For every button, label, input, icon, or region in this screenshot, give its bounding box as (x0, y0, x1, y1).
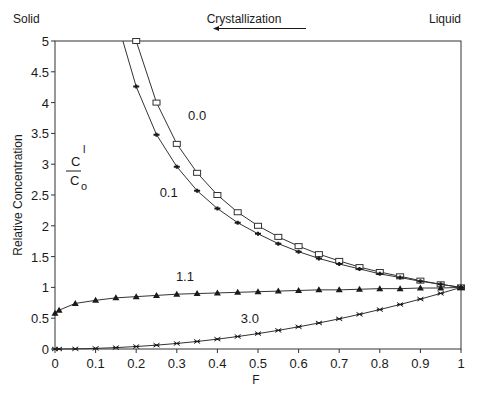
x-tick-label: 1 (457, 356, 464, 371)
series-label: 0.1 (160, 185, 178, 200)
y-axis-ticks: 00.511.522.533.544.55 (31, 34, 55, 357)
solid-label: Solid (13, 12, 40, 26)
y-tick-label: 1 (42, 280, 49, 295)
asterisk-marker-icon (133, 345, 139, 349)
square-marker-icon (234, 210, 241, 215)
star-marker-icon (174, 165, 180, 169)
x-tick-label: 0.9 (411, 356, 429, 371)
asterisk-marker-icon (214, 337, 220, 341)
y-tick-label: 0.5 (31, 311, 49, 326)
series-label: 0.0 (188, 108, 206, 123)
star-marker-icon (296, 250, 302, 254)
y-axis-label: Relative Concentration (11, 134, 25, 255)
x-tick-label: 0.2 (127, 356, 145, 371)
asterisk-marker-icon (438, 291, 444, 295)
x-tick-label: 0.6 (290, 356, 308, 371)
y-tick-label: 0 (42, 342, 49, 357)
asterisk-marker-icon (56, 347, 62, 351)
y-tick-label: 2 (42, 219, 49, 234)
asterisk-marker-icon (357, 312, 363, 316)
square-marker-icon (173, 141, 180, 146)
square-marker-icon (214, 193, 221, 198)
asterisk-marker-icon (377, 308, 383, 312)
square-marker-icon (275, 234, 282, 239)
asterisk-marker-icon (316, 321, 322, 325)
asterisk-marker-icon (275, 328, 281, 332)
y-tick-label: 3.5 (31, 126, 49, 141)
series-0.1 (123, 41, 464, 289)
asterisk-marker-icon (154, 343, 160, 347)
x-tick-label: 0.4 (208, 356, 226, 371)
ratio-numerator: C (71, 154, 80, 169)
y-tick-label: 3 (42, 157, 49, 172)
y-tick-label: 4.5 (31, 65, 49, 80)
concentration-ratio: C l C o (66, 143, 87, 192)
ratio-superscript: l (83, 143, 85, 155)
square-marker-icon (295, 244, 302, 249)
asterisk-marker-icon (255, 332, 261, 336)
plot-frame (55, 41, 461, 349)
ratio-denominator: C (70, 173, 79, 188)
chart: Solid Liquid Crystallization Relative Co… (0, 0, 480, 394)
star-marker-icon (154, 133, 160, 137)
asterisk-marker-icon (235, 335, 241, 339)
asterisk-marker-icon (397, 302, 403, 306)
y-tick-label: 2.5 (31, 188, 49, 203)
x-tick-label: 0 (51, 356, 58, 371)
square-marker-icon (194, 170, 201, 175)
asterisk-marker-icon (417, 297, 423, 301)
series-label: 1.1 (176, 269, 194, 284)
asterisk-marker-icon (174, 341, 180, 345)
crystallization-label: Crystallization (207, 12, 282, 26)
asterisk-marker-icon (296, 325, 302, 329)
square-marker-icon (255, 223, 262, 228)
x-tick-label: 0.8 (371, 356, 389, 371)
x-tick-label: 0.7 (330, 356, 348, 371)
x-tick-label: 0.1 (87, 356, 105, 371)
y-tick-label: 1.5 (31, 250, 49, 265)
series-label: 3.0 (241, 311, 259, 326)
x-tick-label: 0.3 (168, 356, 186, 371)
x-axis-ticks: 00.10.20.30.40.50.60.70.80.91 (51, 349, 464, 371)
liquid-label: Liquid (429, 12, 461, 26)
data-series (52, 39, 465, 352)
square-marker-icon (153, 100, 160, 105)
y-tick-label: 4 (42, 96, 49, 111)
star-marker-icon (133, 85, 139, 89)
asterisk-marker-icon (72, 347, 78, 351)
x-axis-label: F (252, 373, 259, 387)
x-tick-label: 0.5 (249, 356, 267, 371)
y-tick-label: 5 (42, 34, 49, 49)
ratio-subscript: o (81, 180, 87, 192)
asterisk-marker-icon (194, 339, 200, 343)
square-marker-icon (133, 39, 140, 44)
square-marker-icon (315, 252, 322, 257)
left-arrow-icon (213, 26, 306, 31)
asterisk-marker-icon (336, 317, 342, 321)
